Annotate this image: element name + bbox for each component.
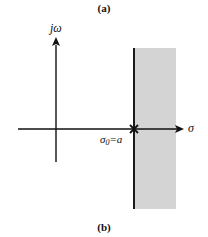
pole-label: σ0=a [100,134,122,147]
bottom-caption: (b) [97,222,110,233]
pole-label-rest: =a [109,133,122,145]
imag-axis-label: jω [50,22,62,34]
imag-axis-arrow-icon [52,37,60,46]
real-axis-label: σ [188,122,194,134]
s-plane-diagram [0,0,208,237]
